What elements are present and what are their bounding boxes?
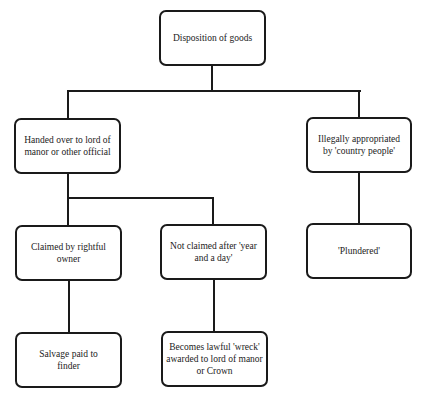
node-root: Disposition of goods <box>159 10 266 66</box>
connector <box>67 197 214 199</box>
node-plundered: 'Plundered' <box>306 223 412 279</box>
connector <box>68 280 70 332</box>
node-handed-over: Handed over to lord of manor or other of… <box>14 118 121 174</box>
connector <box>212 197 214 224</box>
connector <box>67 173 69 225</box>
connector <box>67 90 361 92</box>
node-not-claimed: Not claimed after 'year and a day' <box>160 224 267 280</box>
connector <box>211 65 213 92</box>
connector <box>67 90 69 118</box>
connector <box>213 279 215 331</box>
node-claimed: Claimed by rightful owner <box>15 225 122 281</box>
node-wreck: Becomes lawful 'wreck' awarded to lord o… <box>161 331 268 387</box>
connector <box>358 90 360 117</box>
node-illegally-appropriated: Illegally appropriated by 'country peopl… <box>306 117 412 173</box>
connector <box>358 172 360 223</box>
node-salvage: Salvage paid to finder <box>15 332 122 388</box>
